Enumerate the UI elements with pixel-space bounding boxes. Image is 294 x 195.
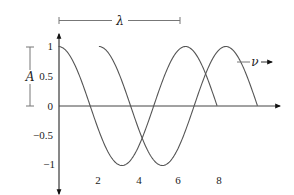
x-tick-label: 2 [95, 174, 101, 186]
y-tick-label: 1 [48, 40, 54, 52]
x-tick-label: 4 [136, 174, 142, 186]
wave-diagram: λ A 1 0.5 0 −0.5 −1 2 4 6 8 ν [0, 0, 294, 195]
wavelength-indicator: λ [59, 14, 180, 28]
velocity-indicator: ν [237, 55, 272, 69]
x-tick-label: 8 [216, 174, 222, 186]
x-tick-label: 6 [175, 174, 181, 186]
amplitude-indicator: A [25, 47, 35, 106]
velocity-label: ν [251, 55, 258, 69]
y-tick-label: −0.5 [33, 129, 53, 141]
y-tick-label: 0 [48, 100, 54, 112]
y-tick-label: −1 [43, 158, 55, 170]
amplitude-label: A [25, 70, 35, 84]
y-tick-label: 0.5 [39, 70, 53, 82]
wavelength-label: λ [115, 14, 124, 28]
